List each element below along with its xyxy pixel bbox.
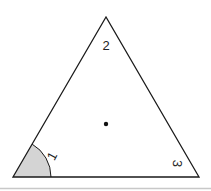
angle-2-label: 2	[102, 38, 109, 53]
triangle-diagram: 2 1 3	[0, 0, 211, 191]
center-dot	[104, 122, 108, 126]
angle-3-label: 3	[170, 159, 186, 168]
angle-1-shaded-sector	[13, 144, 51, 177]
